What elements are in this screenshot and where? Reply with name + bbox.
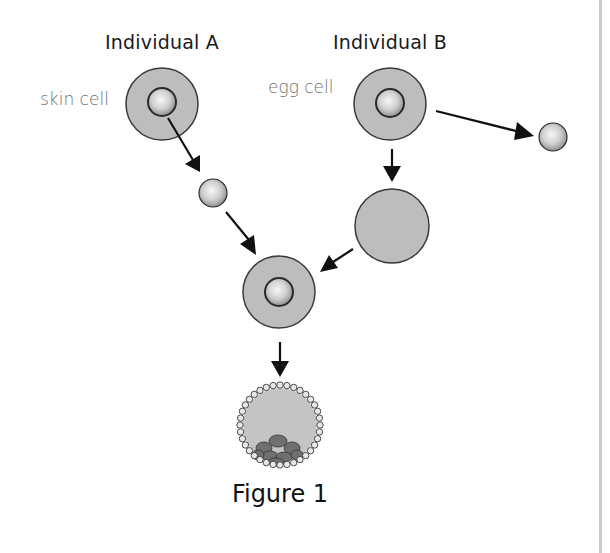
skin-cell xyxy=(126,68,198,140)
figure-caption: Figure 1 xyxy=(232,480,328,508)
skin-cell-label: skin cell xyxy=(40,89,109,109)
cloning-diagram: Individual A Individual B skin cell egg … xyxy=(0,0,610,553)
egg-cell-label: egg cell xyxy=(268,77,334,97)
arrowhead-icon xyxy=(383,166,401,182)
arrow-icon xyxy=(226,212,256,255)
arrowhead-icon xyxy=(271,361,289,377)
arrow-icon xyxy=(320,249,353,272)
egg-cell xyxy=(354,68,426,140)
individual-b-heading: Individual B xyxy=(333,31,447,53)
arrow-icon xyxy=(436,111,534,140)
blastocyst xyxy=(237,382,323,468)
donor-nucleus xyxy=(199,179,227,207)
individual-a-heading: Individual A xyxy=(105,31,219,53)
removed-egg-nucleus xyxy=(539,123,567,151)
enucleated-egg xyxy=(355,189,429,263)
page-divider xyxy=(599,0,602,553)
reconstructed-cell xyxy=(243,256,315,328)
